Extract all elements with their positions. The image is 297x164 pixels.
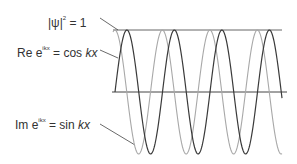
real-leader-line — [100, 50, 118, 58]
wave-diagram — [0, 0, 297, 164]
imag-leader-line — [100, 124, 135, 145]
norm-leader-line — [100, 18, 118, 30]
